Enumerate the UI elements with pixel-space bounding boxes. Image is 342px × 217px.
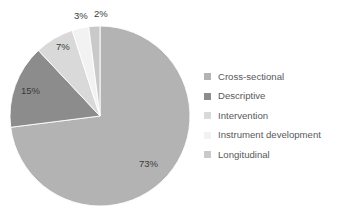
legend-item-cross-sectional[interactable]: Cross-sectional <box>204 67 342 87</box>
legend-swatch-icon-descriptive <box>204 93 211 100</box>
chart-legend: Cross-sectionalDescriptiveInterventionIn… <box>204 67 342 165</box>
slice-label-cross-sectional: 73% <box>139 158 158 169</box>
slice-label-instrument-development: 3% <box>74 10 88 21</box>
legend-label-instrument-development: Instrument development <box>218 130 321 140</box>
legend-item-instrument-development[interactable]: Instrument development <box>204 126 342 146</box>
slice-label-longitudinal: 2% <box>94 8 108 19</box>
legend-swatch-icon-instrument-development <box>204 132 211 139</box>
legend-item-longitudinal[interactable]: Longitudinal <box>204 145 342 165</box>
legend-swatch-icon-longitudinal <box>204 151 211 158</box>
pie-chart-figure: 73% 15% 7% 3% 2% Cross-sectionalDescript… <box>0 0 342 217</box>
pie-chart-svg <box>0 0 200 217</box>
legend-item-descriptive[interactable]: Descriptive <box>204 87 342 107</box>
slice-label-descriptive: 15% <box>21 85 40 96</box>
legend-item-intervention[interactable]: Intervention <box>204 106 342 126</box>
pie-chart-plot-area: 73% 15% 7% 3% 2% <box>0 0 200 217</box>
slice-label-intervention: 7% <box>56 41 70 52</box>
legend-label-cross-sectional: Cross-sectional <box>218 72 284 82</box>
legend-label-descriptive: Descriptive <box>218 91 265 101</box>
pie-slice-group <box>10 26 190 206</box>
legend-swatch-icon-intervention <box>204 112 211 119</box>
legend-label-longitudinal: Longitudinal <box>218 150 270 160</box>
legend-label-intervention: Intervention <box>218 111 268 121</box>
legend-swatch-icon-cross-sectional <box>204 73 211 80</box>
